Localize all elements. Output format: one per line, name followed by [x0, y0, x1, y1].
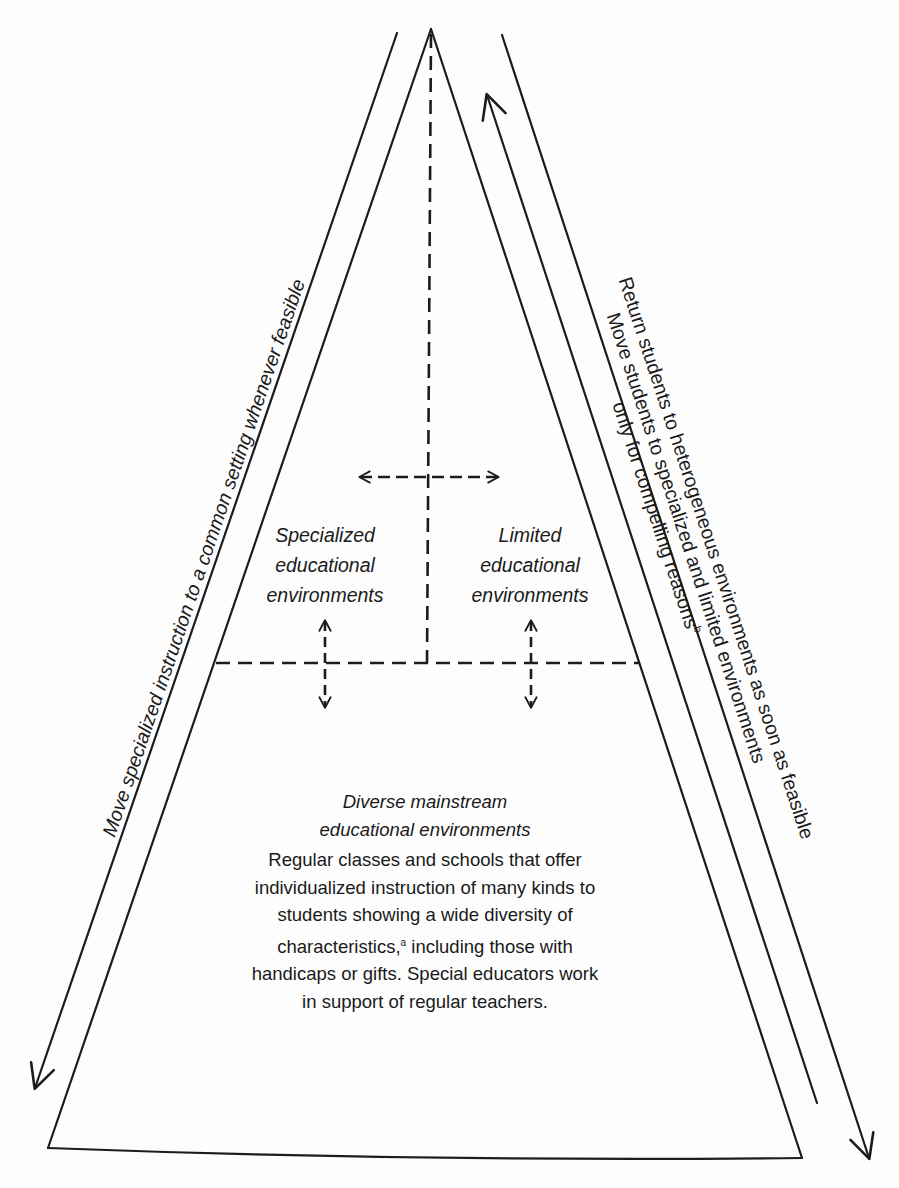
limited-line-3: environments [440, 580, 620, 610]
mainstream-body-fragment: characteristics, [277, 936, 400, 957]
right-inner-label-line1: Move students to specialized and limited… [603, 310, 771, 766]
right-outer-label: Return students to heterogeneous environ… [615, 274, 819, 841]
specialized-zone-title: Specialized educational environments [240, 520, 410, 610]
mainstream-body-line: individualized instruction of many kinds… [200, 874, 650, 902]
footnote-a-marker: a [401, 937, 407, 948]
mainstream-body-line: Regular classes and schools that offer [200, 846, 650, 874]
mainstream-title-line-1: Diverse mainstream [200, 788, 650, 816]
specialized-line-3: environments [240, 580, 410, 610]
limited-line-2: educational [440, 550, 620, 580]
specialized-line-1: Specialized [240, 520, 410, 550]
mainstream-body-line: characteristics,a including those with [200, 929, 650, 961]
specialized-line-2: educational [240, 550, 410, 580]
mainstream-description: Regular classes and schools that offer i… [200, 846, 650, 1015]
mainstream-title-line-2: educational environments [200, 816, 650, 844]
mainstream-body-fragment: including those with [411, 936, 572, 957]
limited-zone-title: Limited educational environments [440, 520, 620, 610]
vertical-divider [427, 34, 431, 663]
mainstream-body-line: students showing a wide diversity of [200, 901, 650, 929]
mainstream-body-line: handicaps or gifts. Special educators wo… [200, 960, 650, 988]
limited-line-1: Limited [440, 520, 620, 550]
pyramid-base [48, 1148, 802, 1159]
mainstream-zone: Diverse mainstream educational environme… [200, 788, 650, 1015]
mainstream-body-line: in support of regular teachers. [200, 988, 650, 1016]
